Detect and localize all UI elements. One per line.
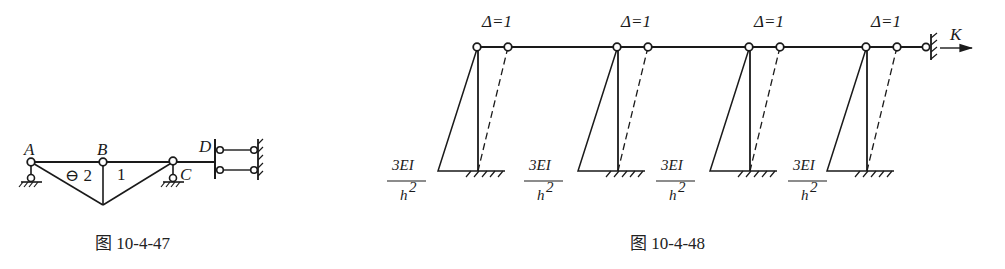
deflected-shape	[867, 47, 897, 171]
moment-denominator: h	[669, 187, 677, 203]
deflected-shape	[618, 47, 648, 171]
moment-denominator: h	[801, 187, 809, 203]
node-label-D: D	[198, 137, 212, 156]
stiffness-label-K: K	[949, 25, 963, 44]
fixed-support-hatch	[855, 171, 892, 177]
node-label-C: C	[180, 165, 192, 184]
hinge-B	[99, 158, 107, 166]
moment-numerator: 3EI	[792, 157, 816, 173]
figure-10-4-47: A B C D ⊖ 2 1 图 10-4-47	[19, 137, 263, 253]
svg-text:2: 2	[678, 179, 686, 195]
hinge-C	[169, 157, 177, 165]
moment-numerator: 3EI	[660, 157, 684, 173]
member-label-2: ⊖ 2	[65, 166, 92, 185]
moment-numerator: 3EI	[391, 157, 415, 173]
caption-10-4-48: 图 10-4-48	[630, 234, 705, 253]
delta-label: Δ=1	[481, 12, 512, 31]
node-label-A: A	[23, 140, 35, 159]
caption-10-4-47: 图 10-4-47	[95, 234, 171, 253]
moment-numerator: 3EI	[528, 157, 552, 173]
deflected-shape	[478, 47, 508, 171]
fixed-support-hatch	[606, 171, 643, 177]
column-3: Δ=1 3EI h 2	[656, 12, 784, 203]
diagonal-C	[103, 162, 173, 205]
right-end-support	[922, 33, 937, 60]
moment-diagram	[827, 49, 894, 171]
hinge-A	[27, 158, 35, 166]
delta-label: Δ=1	[870, 12, 901, 31]
delta-label: Δ=1	[753, 12, 784, 31]
member-label-1: 1	[117, 165, 126, 184]
fixed-support-hatch	[466, 171, 503, 177]
column-4: Δ=1 3EI h 2	[788, 12, 901, 203]
moment-diagram	[710, 49, 777, 171]
svg-text:2: 2	[810, 179, 818, 195]
deflected-shape	[750, 47, 780, 171]
fixed-support-hatch	[738, 171, 775, 177]
node-label-B: B	[97, 140, 108, 159]
figure-10-4-48: K Δ=1 3EI h 2 Δ=1 3EI h 2	[387, 12, 972, 253]
structural-diagrams: A B C D ⊖ 2 1 图 10-4-47 K Δ=1 3EI	[0, 0, 1005, 269]
moment-diagram	[438, 49, 505, 171]
svg-text:2: 2	[409, 179, 417, 195]
moment-diagram	[578, 49, 645, 171]
svg-text:2: 2	[546, 179, 554, 195]
column-2: Δ=1 3EI h 2	[524, 12, 652, 203]
moment-denominator: h	[537, 187, 545, 203]
guided-support-D	[215, 139, 263, 180]
moment-denominator: h	[400, 187, 408, 203]
column-1: Δ=1 3EI h 2	[387, 12, 512, 203]
delta-label: Δ=1	[620, 12, 651, 31]
